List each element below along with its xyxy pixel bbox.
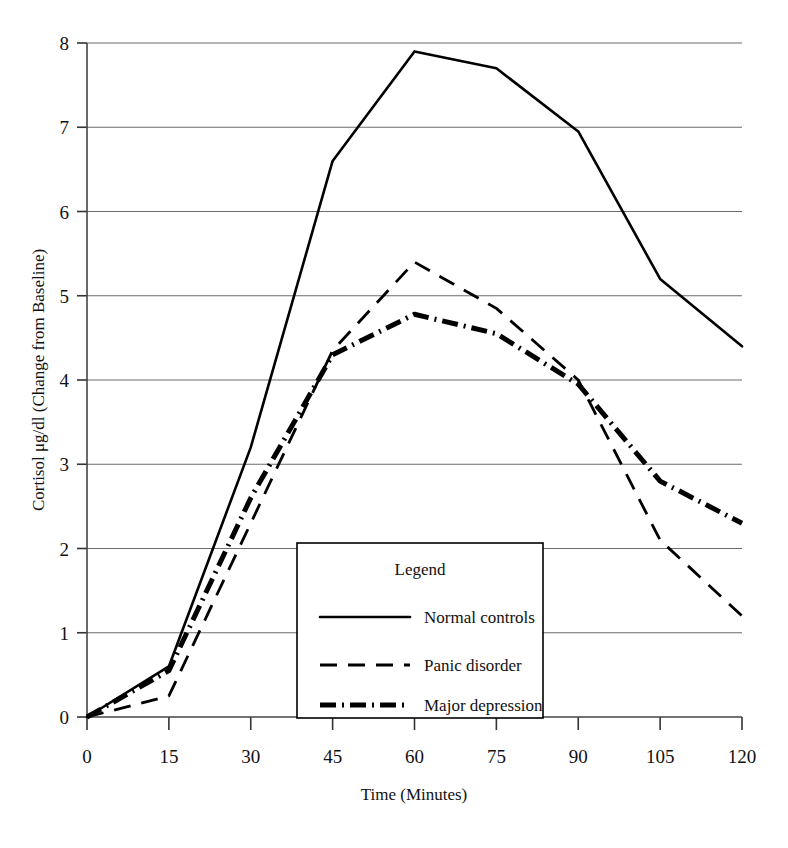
x-tick-label-105: 105: [646, 746, 675, 767]
x-tick-label-15: 15: [159, 746, 178, 767]
y-tick-label-7: 7: [60, 117, 70, 138]
y-tick-label-5: 5: [60, 286, 70, 307]
y-tick-label-6: 6: [60, 202, 70, 223]
y-tick-label-1: 1: [60, 623, 70, 644]
x-axis-title: Time (Minutes): [361, 785, 468, 804]
x-tick-label-30: 30: [241, 746, 260, 767]
x-tick-label-0: 0: [82, 746, 92, 767]
y-tick-label-8: 8: [60, 33, 70, 54]
x-tick-label-60: 60: [405, 746, 424, 767]
y-axis-title: Cortisol μg/dl (Change from Baseline): [29, 249, 48, 511]
y-tick-label-3: 3: [60, 454, 70, 475]
legend-label-panic-disorder: Panic disorder: [424, 656, 522, 675]
x-tick-label-75: 75: [487, 746, 506, 767]
y-tick-label-2: 2: [60, 539, 70, 560]
chart-canvas: 012345678 0153045607590105120 Cortisol μ…: [0, 0, 788, 848]
x-tick-label-90: 90: [569, 746, 588, 767]
x-tick-label-120: 120: [728, 746, 757, 767]
y-tick-label-4: 4: [60, 370, 70, 391]
y-axis-tick-labels: 012345678: [60, 33, 70, 728]
legend-title: Legend: [395, 560, 446, 579]
x-axis-tick-labels: 0153045607590105120: [82, 746, 756, 767]
cortisol-response-chart: 012345678 0153045607590105120 Cortisol μ…: [0, 0, 788, 848]
legend: Legend Normal controlsPanic disorderMajo…: [297, 543, 543, 718]
x-tick-label-45: 45: [323, 746, 342, 767]
legend-label-major-depression: Major depression: [424, 696, 543, 715]
y-tick-label-0: 0: [60, 707, 70, 728]
legend-label-normal-controls: Normal controls: [424, 608, 535, 627]
